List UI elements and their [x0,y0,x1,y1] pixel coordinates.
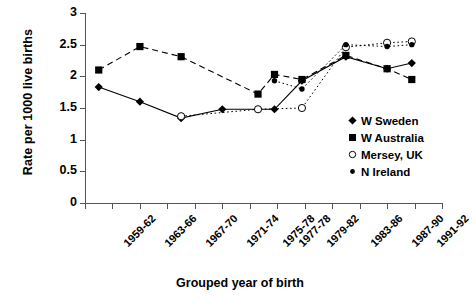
data-point-mersey-uk [298,104,305,111]
data-point-w-australia [95,66,102,73]
chart-legend: W SwedenW AustraliaMersey, UKN Ireland [345,112,424,180]
x-tick-mark [112,204,113,209]
y-tick-label: 0.5 [47,163,77,177]
data-point-w-australia [178,53,185,60]
data-point-w-australia [136,43,143,50]
x-tick-mark [140,204,141,209]
series-line-n-ireland [274,45,411,89]
x-tick-label: 1971-74 [244,212,281,249]
data-point-w-sweden [136,98,144,106]
legend-item: N Ireland [345,163,424,180]
data-point-w-australia [342,52,349,59]
y-axis-title: Rate per 1000 live births [21,2,35,202]
x-tick-label: 1963-66 [162,212,199,249]
data-point-n-ireland [343,42,348,47]
x-axis-line [85,203,443,204]
data-point-w-sweden [408,59,416,67]
data-point-mersey-uk [254,106,261,113]
filled-diamond-icon [345,115,359,126]
x-tick-mark [332,204,333,209]
y-tick-label: 0 [47,195,77,209]
x-tick-mark [85,204,86,209]
data-point-n-ireland [272,78,277,83]
data-point-n-ireland [384,44,389,49]
x-tick-label: 1959-62 [121,212,158,249]
y-tick-label: 2.5 [47,37,77,51]
x-tick-mark [360,204,361,209]
legend-item: W Australia [345,129,424,146]
legend-label: N Ireland [359,166,410,178]
x-axis-title: Grouped year of birth [85,276,395,290]
y-tick-label: 2 [47,68,77,82]
x-tick-mark [415,204,416,209]
data-point-w-australia [298,76,305,83]
data-point-w-australia [383,65,390,72]
y-tick-label: 1.5 [47,100,77,114]
x-tick-mark [277,204,278,209]
legend-label: W Australia [359,132,424,144]
x-tick-mark [167,204,168,209]
data-point-w-australia [408,76,415,83]
x-tick-mark [442,204,443,209]
x-tick-mark [195,204,196,209]
x-tick-mark [222,204,223,209]
data-point-w-sweden [95,83,103,91]
open-circle-icon [345,149,359,160]
filled-square-icon [345,132,359,143]
data-point-w-australia [254,90,261,97]
legend-label: W Sweden [359,115,419,127]
x-tick-mark [305,204,306,209]
data-point-w-sweden [218,105,226,113]
data-point-n-ireland [299,86,304,91]
legend-item: Mersey, UK [345,146,424,163]
y-tick-label: 1 [47,132,77,146]
legend-item: W Sweden [345,112,424,129]
legend-label: Mersey, UK [359,149,423,161]
series-line-w-australia [99,47,412,95]
chart-figure: Rate per 1000 live births Grouped year o… [0,0,476,305]
x-tick-label: 1967-70 [203,212,240,249]
data-point-w-australia [271,71,278,78]
y-tick-label: 3 [47,5,77,19]
x-tick-mark [250,204,251,209]
x-tick-label: 1983-86 [368,212,405,249]
data-point-n-ireland [409,42,414,47]
data-point-mersey-uk [178,113,185,120]
x-tick-mark [387,204,388,209]
filled-dot-icon [345,166,359,177]
